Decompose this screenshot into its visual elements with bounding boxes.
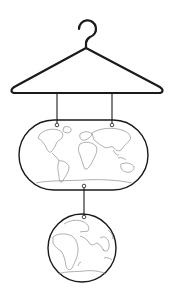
illustration-canvas bbox=[0, 0, 171, 298]
coat-hanger-icon bbox=[12, 20, 163, 93]
hanger-globe-illustration bbox=[0, 0, 171, 298]
ring-left bbox=[55, 123, 59, 127]
globe-outline bbox=[48, 214, 116, 282]
hanger-hook bbox=[79, 20, 96, 48]
hanger-body bbox=[12, 48, 163, 93]
ring-right bbox=[110, 123, 114, 127]
ring-globe-top bbox=[82, 215, 86, 219]
world-map-icon bbox=[19, 120, 148, 190]
hanging-strings bbox=[55, 94, 114, 219]
ring-oval-bottom bbox=[82, 184, 86, 188]
world-map-frame bbox=[19, 120, 148, 190]
globe-icon bbox=[48, 214, 116, 282]
